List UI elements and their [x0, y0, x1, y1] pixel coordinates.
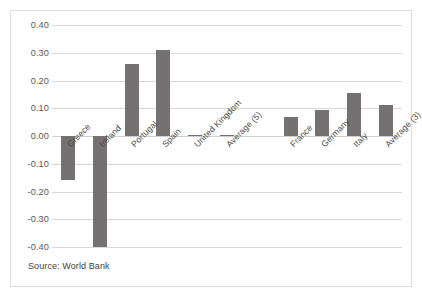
bar — [93, 136, 107, 247]
y-axis-tick-label: 0.20 — [13, 76, 49, 86]
gridline — [52, 53, 402, 54]
y-axis-tick-label: 0.40 — [13, 20, 49, 30]
gridline — [52, 25, 402, 26]
chart-card: 0.400.300.200.100.00-0.10-0.20-0.30-0.40… — [10, 10, 412, 287]
y-axis-tick-label: -0.40 — [13, 242, 49, 252]
source-note: Source: World Bank — [28, 261, 110, 271]
bar — [347, 93, 361, 136]
y-axis-tick-label: -0.20 — [13, 187, 49, 197]
y-axis-tick-label: -0.30 — [13, 214, 49, 224]
gridline — [52, 81, 402, 82]
y-axis-tick-label: 0.00 — [13, 131, 49, 141]
y-axis-tick-label: 0.30 — [13, 48, 49, 58]
gridline — [52, 247, 402, 248]
bar — [125, 64, 139, 136]
y-axis-tick-label: 0.10 — [13, 103, 49, 113]
bar — [156, 50, 170, 136]
y-axis-tick-label: -0.10 — [13, 159, 49, 169]
y-axis-tick-labels: 0.400.300.200.100.00-0.10-0.20-0.30-0.40 — [11, 25, 49, 247]
bar — [379, 105, 393, 136]
